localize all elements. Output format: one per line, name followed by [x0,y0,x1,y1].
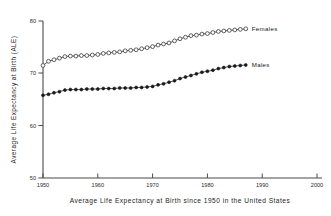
data-point-males-1970 [151,85,154,88]
data-point-males-1967 [135,86,138,89]
y-tick-label-50: 50 [30,175,36,181]
data-point-males-1952 [52,91,55,94]
data-point-females-1974 [173,39,177,43]
data-point-males-1951 [47,93,50,96]
series-layer [41,27,248,97]
data-point-males-1962 [107,87,110,90]
data-point-females-1958 [85,54,89,58]
data-point-males-1966 [129,86,132,89]
data-point-males-1964 [118,86,121,89]
series-label-males: Males [252,61,270,68]
y-axis-tick-labels: 80 70 60 50 [30,18,36,181]
data-point-males-1982 [217,67,220,70]
series-label-females: Females [252,25,278,32]
data-point-females-1973 [167,41,171,45]
data-point-males-1986 [239,64,242,67]
y-tick-label-70: 70 [30,70,36,76]
data-point-females-1985 [233,28,237,32]
data-point-females-1957 [79,54,83,58]
data-point-males-1973 [168,81,171,84]
data-point-females-1959 [90,53,94,57]
series-line-females [43,29,246,66]
x-tick-label-1980: 1980 [201,182,213,188]
data-point-males-1975 [179,77,182,80]
data-point-females-1981 [211,31,215,35]
data-point-females-1960 [96,53,100,57]
data-point-females-1950 [41,64,45,68]
data-point-males-1974 [173,79,176,82]
x-axis-ticks [43,174,317,179]
data-point-females-1970 [151,45,155,49]
x-tick-label-1970: 1970 [146,182,158,188]
data-point-females-1967 [134,48,138,52]
data-point-males-1958 [85,88,88,91]
data-point-females-1956 [74,54,78,58]
data-point-males-1976 [184,76,187,79]
data-point-females-1961 [101,52,105,56]
data-point-females-1965 [123,49,127,53]
data-point-males-1955 [69,88,72,91]
series-line-males [43,65,246,95]
y-axis-title: Average Life Expectancy at Birth (ALE) [10,36,18,164]
chart-figure: 80 70 60 50 1950 1960 1970 1980 1990 200… [0,0,331,216]
data-point-males-1965 [124,86,127,89]
data-point-males-1953 [58,90,61,93]
data-point-males-1985 [233,65,236,68]
data-point-females-1952 [52,58,56,62]
data-point-males-1950 [42,94,45,97]
line-chart: 80 70 60 50 1950 1960 1970 1980 1990 200… [0,0,331,216]
data-point-females-1977 [189,34,193,38]
data-point-females-1968 [140,47,144,51]
data-point-females-1982 [216,30,220,34]
data-point-males-1959 [91,88,94,91]
data-point-males-1981 [211,69,214,72]
x-tick-label-1950: 1950 [37,182,49,188]
data-point-females-1972 [162,42,166,46]
data-point-males-1968 [140,86,143,89]
data-point-females-1966 [129,48,133,52]
data-point-males-1980 [206,70,209,73]
data-point-males-1972 [162,82,165,85]
data-point-females-1983 [222,29,226,33]
data-point-males-1984 [228,65,231,68]
x-tick-label-2000: 2000 [311,182,323,188]
y-tick-label-80: 80 [30,18,36,24]
y-tick-label-60: 60 [30,123,36,129]
data-point-females-1969 [145,46,149,50]
data-point-males-1961 [102,87,105,90]
data-point-females-1975 [178,37,182,41]
data-point-males-1960 [96,88,99,91]
x-tick-label-1990: 1990 [256,182,268,188]
data-point-females-1954 [63,55,67,59]
data-point-males-1971 [157,83,160,86]
data-point-males-1956 [74,88,77,91]
data-point-males-1969 [146,85,149,88]
x-axis-tick-labels: 1950 1960 1970 1980 1990 2000 [37,182,323,188]
chart-caption: Average Life Expectancy at Birth since 1… [70,197,291,205]
data-point-females-1951 [47,59,51,63]
data-point-males-1954 [63,89,66,92]
data-point-females-1986 [238,27,242,31]
data-point-males-1987 [244,63,247,66]
data-point-females-1953 [58,56,62,60]
data-point-males-1977 [189,74,192,77]
data-point-males-1978 [195,72,198,75]
data-point-females-1979 [200,32,204,36]
data-point-females-1978 [195,33,199,37]
data-point-females-1971 [156,43,160,47]
data-point-females-1976 [184,35,188,39]
y-axis-ticks [39,21,44,178]
x-tick-label-1960: 1960 [92,182,104,188]
data-point-females-1984 [227,29,231,33]
data-point-females-1980 [206,32,210,36]
data-point-males-1979 [200,71,203,74]
data-point-females-1987 [244,27,248,31]
data-point-males-1963 [113,87,116,90]
data-point-males-1983 [222,66,225,69]
data-point-females-1955 [69,54,73,58]
data-point-females-1963 [112,51,116,55]
data-point-females-1962 [107,51,111,55]
data-point-males-1957 [80,88,83,91]
data-point-females-1964 [118,50,122,54]
